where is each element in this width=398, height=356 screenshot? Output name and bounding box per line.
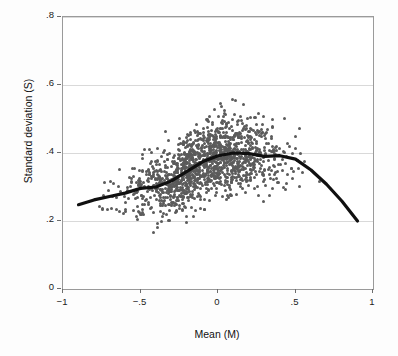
plot-area xyxy=(62,16,374,290)
y-tick-mark xyxy=(57,16,61,17)
x-tick-mark xyxy=(372,289,373,293)
lowess-line xyxy=(63,17,373,289)
y-tick-mark xyxy=(57,152,61,153)
scatter-chart: 0.2.4.6.8 −1−.50.51 Standard deviation (… xyxy=(0,0,398,356)
y-tick-label: 0 xyxy=(28,281,54,292)
x-tick-label: −.5 xyxy=(128,296,152,307)
y-tick-mark xyxy=(57,288,61,289)
x-tick-mark xyxy=(295,289,296,293)
x-axis-title: Mean (M) xyxy=(62,328,372,340)
y-axis-title: Standard deviation (S) xyxy=(22,11,34,251)
y-tick-mark xyxy=(57,84,61,85)
x-tick-label: .5 xyxy=(283,296,307,307)
x-tick-label: 1 xyxy=(360,296,384,307)
x-tick-mark xyxy=(140,289,141,293)
x-tick-label: 0 xyxy=(205,296,229,307)
y-tick-mark xyxy=(57,220,61,221)
x-tick-label: −1 xyxy=(50,296,74,307)
x-tick-mark xyxy=(62,289,63,293)
x-tick-mark xyxy=(217,289,218,293)
